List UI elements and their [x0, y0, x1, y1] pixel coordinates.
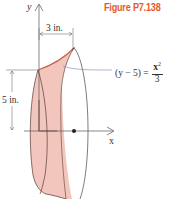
equation-numerator: x2 [153, 61, 161, 73]
numerator-exponent: 2 [158, 61, 161, 67]
equation-lhs: (y − 5) = [115, 68, 149, 78]
x-axis-label: x [109, 135, 114, 146]
width-dimension-label: 3 in. [46, 23, 63, 33]
equation-leader-line [63, 66, 112, 70]
height-dimension-label: 5 in. [2, 95, 19, 105]
centroid-dot [72, 129, 76, 133]
diagram-drawing [0, 0, 178, 199]
equation-fraction: x2 3 [152, 61, 163, 85]
shaded-surface [30, 48, 74, 199]
figure-p7-138: Figure P7.138 y x 3 in. 5 in. (y − 5) = … [0, 0, 178, 199]
curve-equation: (y − 5) = x2 3 [115, 61, 163, 85]
y-axis-label: y [27, 1, 31, 12]
equation-denominator: 3 [155, 75, 160, 85]
revolution-outline [74, 48, 88, 199]
figure-title: Figure P7.138 [104, 1, 160, 13]
